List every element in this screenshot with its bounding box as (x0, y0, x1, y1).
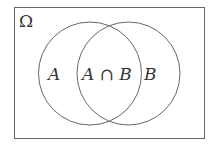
universe-label: Ω (19, 11, 33, 31)
intersection-label: A ∩ B (80, 64, 132, 84)
venn-diagram: Ω A A ∩ B B (0, 0, 213, 144)
set-a-only-label: A (46, 64, 60, 84)
set-b-only-label: B (143, 64, 157, 84)
